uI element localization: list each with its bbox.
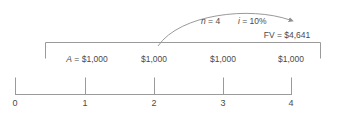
tick-label-1: 1: [82, 99, 87, 108]
cashflow-label-period-3: $1,000: [210, 55, 236, 64]
interest-rate-value: = 10%: [240, 16, 267, 26]
cashflow-amount: $1,000: [210, 54, 236, 64]
annuity-separator: =: [72, 54, 82, 64]
tick-label-3: 3: [220, 99, 225, 108]
annuity-timeline-diagram: n = 4 i = 10% FV = $4,641 A = $1,000 $1,…: [0, 0, 337, 113]
tick-label-2: 2: [151, 99, 156, 108]
future-value-label: FV = $4,641: [264, 31, 311, 40]
cashflow-label-period-2: $1,000: [141, 55, 167, 64]
cashflow-label-period-4: $1,000: [278, 55, 304, 64]
interest-rate-annotation: i = 10%: [238, 17, 267, 26]
cashflow-label-period-1: A = $1,000: [66, 55, 107, 64]
tick-label-4: 4: [288, 99, 293, 108]
tick-label-0: 0: [12, 99, 17, 108]
periods-value: = 4: [206, 16, 220, 26]
periods-annotation: n = 4: [201, 17, 220, 26]
cashflow-amount: $1,000: [141, 54, 167, 64]
timeline-axis: [15, 78, 292, 95]
cashflow-amount: $1,000: [278, 54, 304, 64]
cashflow-amount: $1,000: [82, 54, 108, 64]
